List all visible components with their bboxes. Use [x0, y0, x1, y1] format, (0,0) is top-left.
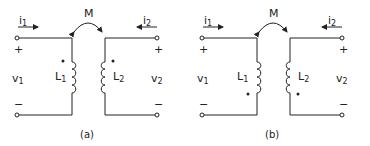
voltage-label-v2: v2	[151, 72, 163, 86]
current-label-i2: i2	[143, 14, 151, 28]
terminal-1-bottom	[200, 113, 204, 117]
terminal-2-bottom	[340, 113, 344, 117]
inductor-L2	[101, 62, 105, 93]
circuit-a	[15, 23, 159, 117]
current-label-i1: i1	[204, 14, 212, 28]
current-label-i1: i1	[19, 14, 27, 28]
inductor-label-L2: L2	[298, 70, 309, 84]
circuit-b	[200, 23, 344, 117]
inductor-L1	[72, 62, 76, 93]
mutual-coupling-arc	[259, 23, 287, 32]
minus-v2: −	[339, 98, 348, 111]
current-label-i2: i2	[328, 14, 336, 28]
minus-v2: −	[154, 98, 163, 111]
terminal-1-top	[15, 36, 19, 40]
minus-v1: −	[199, 98, 208, 111]
inductor-L2	[286, 62, 290, 93]
mutual-coupling-arc	[74, 23, 102, 32]
inductor-label-L2: L2	[113, 70, 124, 84]
polarity-dot-L1	[247, 93, 250, 96]
wire-primary	[204, 38, 257, 115]
voltage-label-v1: v1	[197, 72, 209, 86]
caption-b: (b)	[265, 129, 279, 140]
inductor-label-L1: L1	[237, 70, 248, 84]
plus-v1: +	[14, 43, 23, 56]
terminal-1-bottom	[15, 113, 19, 117]
polarity-dot-L2	[112, 60, 115, 63]
plus-v2: +	[154, 43, 163, 56]
polarity-dot-L2	[297, 93, 300, 96]
voltage-label-v2: v2	[336, 72, 348, 86]
plus-v2: +	[339, 43, 348, 56]
terminal-2-bottom	[155, 113, 159, 117]
terminal-2-top	[340, 36, 344, 40]
inductor-label-L1: L1	[55, 70, 66, 84]
voltage-label-v1: v1	[12, 72, 24, 86]
polarity-dot-L1	[62, 60, 65, 63]
minus-v1: −	[14, 98, 23, 111]
coupled-inductors-figure: M i1 i2 + + − − v1 v2 L1 L2 (a) M i1 i2 …	[0, 0, 370, 146]
inductor-L1	[257, 62, 261, 93]
mutual-label: M	[84, 7, 94, 20]
mutual-label: M	[269, 7, 279, 20]
terminal-1-top	[200, 36, 204, 40]
caption-a: (a)	[80, 129, 94, 140]
terminal-2-top	[155, 36, 159, 40]
plus-v1: +	[199, 43, 208, 56]
